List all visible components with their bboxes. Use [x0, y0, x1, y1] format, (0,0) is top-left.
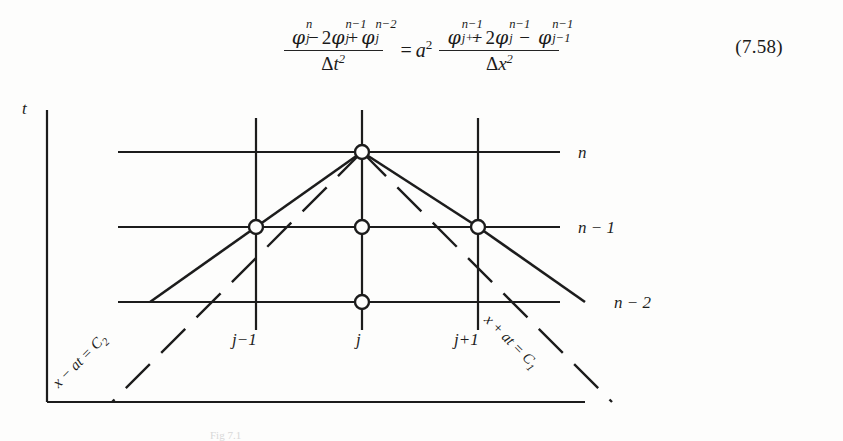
term-phi-jp1-nm1: φ	[447, 26, 460, 48]
lhs-denominator: Δt2	[313, 51, 353, 75]
lhs-fraction: φnj−2φn−1j+φn−2j Δt2	[284, 25, 383, 76]
equation-number: (7.58)	[735, 36, 783, 58]
term-phi-j-n: φ	[292, 26, 305, 48]
rhs-denominator: Δx2	[478, 51, 521, 75]
equals-sign: =	[401, 39, 412, 62]
stencil-jm1-nm1-to-left-nm2	[150, 227, 256, 302]
space-node-label-j: j	[354, 330, 361, 349]
equation-expression: φnj−2φn−1j+φn−2j Δt2 = a2 φn−1j+1−2φn−1j…	[282, 25, 562, 76]
characteristic-label-left: x − at = C	[49, 334, 107, 392]
equation-block: φnj−2φn−1j+φn−2j Δt2 = a2 φn−1j+1−2φn−1j…	[0, 14, 843, 86]
characteristic-label-right-group: x + at = C1	[479, 311, 542, 374]
page-canvas: φnj−2φn−1j+φn−2j Δt2 = a2 φn−1j+1−2φn−1j…	[0, 0, 843, 441]
figure-caption: Fig 7.1	[210, 429, 241, 441]
space-node-label-j-plus-1: j+1	[452, 330, 479, 349]
space-node-label-j-minus-1: j−1	[230, 330, 257, 349]
stencil-apex-to-jp1-nm1	[362, 152, 478, 227]
node-j-nm2	[355, 295, 369, 309]
t-axis-label: t	[22, 99, 28, 118]
svg-text:x − at = C2: x − at = C2	[49, 330, 112, 393]
characteristic-line-left	[112, 152, 362, 402]
characteristic-label-left-group: x − at = C2	[49, 330, 112, 393]
node-jm1-nm1	[249, 220, 263, 234]
term-phi-jm1-nm1: φ	[538, 26, 551, 48]
node-j-nm1	[355, 220, 369, 234]
characteristic-line-right	[362, 152, 612, 402]
rhs-numerator: φn−1j+1−2φn−1j−φn−1j−1	[439, 25, 559, 50]
stencil-diagram-svg: t n n − 1 n − 2 j−1 j j+1 x − at = C2 x …	[0, 92, 843, 441]
term-phi-j-nm1-rhs: φ	[495, 26, 508, 48]
figure-diagram: t n n − 1 n − 2 j−1 j j+1 x − at = C2 x …	[0, 92, 843, 441]
term-phi-j-nm1: φ	[331, 26, 344, 48]
svg-text:x + at = C1: x + at = C1	[479, 311, 542, 374]
node-j-n	[355, 145, 369, 159]
characteristic-label-right: x + at = C	[481, 311, 539, 369]
term-phi-j-nm2: φ	[361, 26, 374, 48]
time-level-label-n: n	[578, 143, 587, 162]
time-level-label-n-minus-1: n − 1	[578, 218, 615, 237]
axes	[47, 110, 585, 402]
node-jp1-nm1	[471, 220, 485, 234]
stencil-apex-to-jm1-nm1	[256, 152, 362, 227]
time-level-label-n-minus-2: n − 2	[614, 293, 651, 312]
coefficient-a-squared: a2	[416, 39, 433, 62]
stencil-jp1-nm1-to-right-nm2	[478, 227, 585, 302]
rhs-fraction: φn−1j+1−2φn−1j−φn−1j−1 Δx2	[439, 25, 559, 76]
lhs-numerator: φnj−2φn−1j+φn−2j	[284, 25, 383, 50]
